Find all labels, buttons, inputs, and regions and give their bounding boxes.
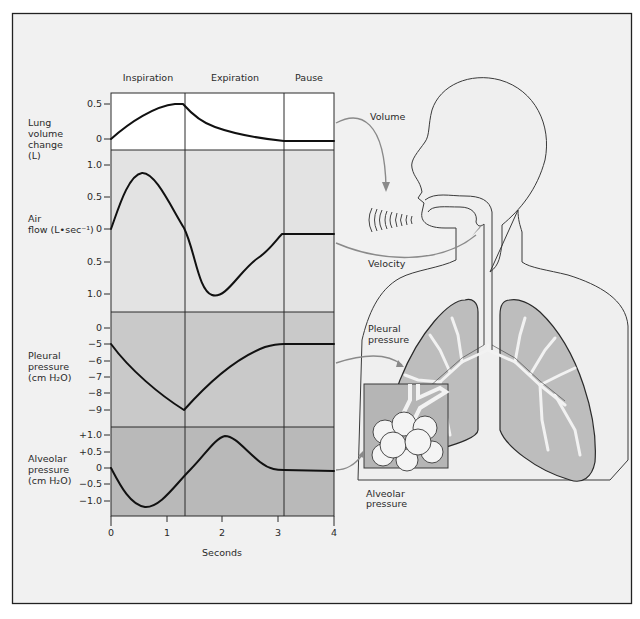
airflow-ylabel: Air: [28, 213, 41, 224]
x-tick: 4: [331, 527, 337, 538]
alveolar-tick: −1.0: [79, 495, 102, 506]
volume-ylabel: change: [28, 139, 63, 150]
airflow-tick: 0: [96, 223, 102, 234]
x-axis-label: Seconds: [202, 547, 242, 558]
volume-tick: 0.5: [87, 98, 102, 109]
pleural-tick: −7: [88, 371, 102, 382]
alveolar-panel-bg: [111, 427, 334, 516]
respiration-figure: Volume Velocity Pleural pressure Alveola…: [0, 0, 640, 619]
pleural-tick: −8: [88, 387, 102, 398]
pleural-ylabel: Pleural: [28, 350, 61, 361]
x-tick: 3: [275, 527, 281, 538]
volume-annotation: Volume: [370, 111, 405, 122]
pleural-tick: 0: [96, 322, 102, 333]
pleural-ylabel: pressure: [28, 361, 69, 372]
x-tick: 2: [219, 527, 225, 538]
volume-ylabel: volume: [28, 128, 63, 139]
alveolar-tick: +1.0: [79, 429, 102, 440]
airflow-tick: 1.0: [87, 159, 102, 170]
airflow-ylabel: flow (L•sec⁻¹): [28, 224, 94, 235]
alveolar-ylabel: pressure: [28, 464, 69, 475]
velocity-annotation: Velocity: [368, 258, 406, 269]
pleural-tick: −5: [88, 338, 102, 349]
phase-label-expiration: Expiration: [211, 72, 259, 83]
airflow-tick: 0.5: [87, 191, 102, 202]
alveolar-ylabel: (cm H₂O): [28, 475, 71, 486]
alveolar-ylabel: Alveolar: [28, 453, 67, 464]
phase-label-inspiration: Inspiration: [123, 72, 173, 83]
pleural-annotation-line2: pressure: [368, 334, 409, 345]
phase-label-pause: Pause: [295, 72, 323, 83]
volume-ylabel: Lung: [28, 117, 51, 128]
alveolar-tick: −0.5: [79, 478, 102, 489]
x-tick: 1: [164, 527, 170, 538]
airflow-tick: 1.0: [87, 288, 102, 299]
alveolar-tick: 0: [96, 462, 102, 473]
pleural-annotation-line1: Pleural: [368, 323, 401, 334]
volume-tick: 0: [96, 133, 102, 144]
pleural-ylabel: (cm H₂O): [28, 372, 71, 383]
alveoli-inset: [364, 384, 448, 471]
airflow-panel-bg: [111, 150, 334, 312]
pleural-tick: −6: [88, 355, 102, 366]
airflow-tick: 0.5: [87, 256, 102, 267]
pleural-tick: −9: [88, 404, 102, 415]
volume-ylabel: (L): [28, 150, 41, 161]
pleural-panel-bg: [111, 312, 334, 427]
alveolar-annotation-line2: pressure: [366, 498, 407, 509]
x-tick: 0: [108, 527, 114, 538]
alveolar-tick: +0.5: [79, 446, 102, 457]
